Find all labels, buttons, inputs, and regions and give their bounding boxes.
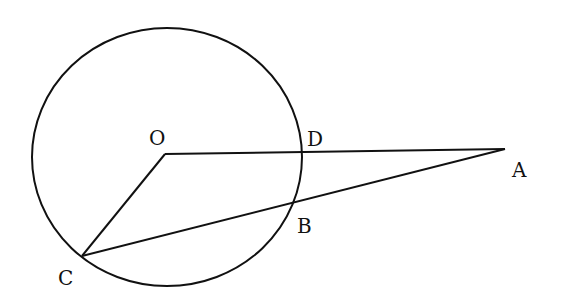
label-b: B: [297, 214, 312, 238]
segment-ca: [82, 149, 505, 256]
circle-o: [32, 28, 302, 286]
label-d: D: [307, 127, 323, 151]
segment-oc: [82, 154, 165, 256]
geometry-diagram: O D A B C: [0, 0, 561, 304]
segment-oa: [165, 149, 505, 154]
label-a: A: [511, 158, 527, 182]
label-c: C: [58, 266, 73, 290]
label-o: O: [149, 126, 165, 150]
